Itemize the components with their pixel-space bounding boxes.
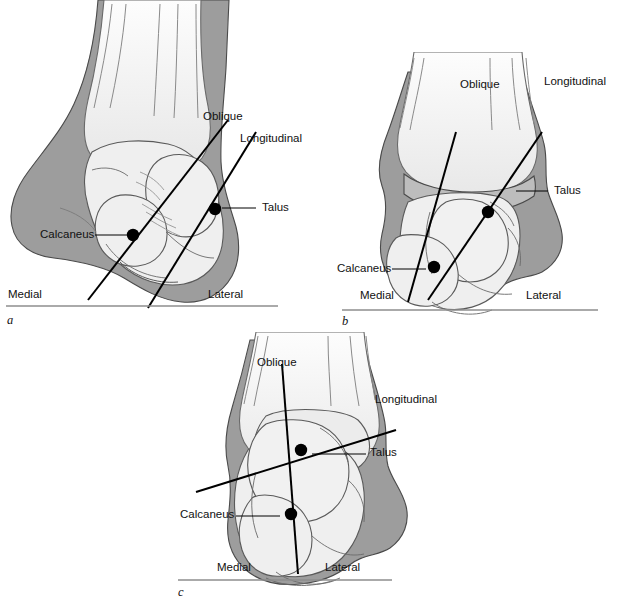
talus-axis-point-c [295,444,307,456]
panel-b-label-oblique: Oblique [460,79,500,91]
leg-shaft-b [398,52,538,194]
panel-c-letter: c [178,585,184,600]
calcaneus-axis-point-b [428,261,440,273]
panel-b-label-longitudinal: Longitudinal [544,76,606,88]
panel-a-letter: a [7,313,13,328]
panel-c-illustration [170,332,460,609]
talus-axis-point-a [209,203,221,215]
panel-b-label-lateral: Lateral [526,290,561,302]
panel-c-label-talus: Talus [370,447,397,459]
panel-a-label-calcaneus: Calcaneus [40,229,94,241]
panel-a: Oblique Longitudinal Talus Calcaneus Med… [0,0,300,335]
panel-a-illustration [0,0,300,335]
panel-c-label-calcaneus: Calcaneus [180,509,234,521]
panel-a-label-lateral: Lateral [208,289,243,301]
panel-a-label-medial: Medial [8,289,42,301]
calcaneus-axis-point-c [285,508,297,520]
panel-c-label-longitudinal: Longitudinal [375,394,437,406]
panel-b-letter: b [342,314,348,329]
panel-c: Oblique Longitudinal Talus Calcaneus Med… [170,332,460,609]
panel-c-label-lateral: Lateral [325,562,360,574]
panel-a-label-talus: Talus [262,202,289,214]
panel-c-label-oblique: Oblique [257,357,297,369]
panel-b-label-calcaneus: Calcaneus [337,263,391,275]
panel-b: Oblique Longitudinal Talus Calcaneus Med… [330,52,617,335]
panel-a-label-oblique: Oblique [203,111,243,123]
talus-axis-point-b [482,206,494,218]
panel-c-label-medial: Medial [217,562,251,574]
panel-b-label-medial: Medial [360,290,394,302]
panel-b-label-talus: Talus [554,185,581,197]
panel-a-label-longitudinal: Longitudinal [240,133,302,145]
calcaneus-axis-point-a [127,229,139,241]
